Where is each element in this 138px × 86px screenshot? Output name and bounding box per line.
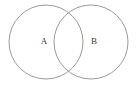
label-set-b: B [91,36,97,46]
venn-diagram-canvas: A B [0,0,138,86]
venn-diagram-figure: A B [0,0,138,86]
label-set-a: A [41,36,48,46]
